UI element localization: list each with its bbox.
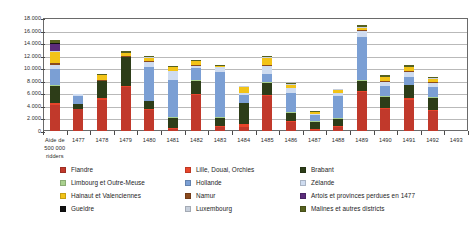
x-tick-mark bbox=[114, 131, 115, 135]
legend-label: Hollande bbox=[196, 179, 222, 186]
legend-label: Malines et autres districts bbox=[311, 205, 384, 212]
legend-item[interactable]: Lille, Douai, Orchies bbox=[185, 163, 254, 176]
bar-segment bbox=[239, 95, 249, 103]
legend-item[interactable]: Luxembourg bbox=[185, 202, 254, 215]
y-tick-label: 6.000 bbox=[0, 90, 41, 96]
y-tick-label: 12.000 bbox=[0, 53, 41, 59]
bar-segment bbox=[262, 58, 272, 65]
legend-swatch-icon bbox=[60, 180, 66, 186]
y-tick-label: 10.000 bbox=[0, 65, 41, 71]
x-tick-mark bbox=[232, 131, 233, 135]
legend-column: BrabantZélandeArtois et provinces perdue… bbox=[300, 163, 415, 215]
bar-segment bbox=[168, 80, 178, 117]
legend-label: Artois et provinces perdues en 1477 bbox=[311, 192, 415, 199]
bar-segment bbox=[286, 113, 296, 121]
legend-item[interactable]: Malines et autres districts bbox=[300, 202, 415, 215]
bar-column bbox=[73, 94, 83, 131]
bar-segment bbox=[262, 96, 272, 131]
stacked-bar-chart: 02.0004.0006.0008.00010.00012.00014.0001… bbox=[0, 0, 475, 225]
x-tick-mark bbox=[421, 131, 422, 135]
bar-segment bbox=[380, 97, 390, 108]
bar-column bbox=[357, 25, 367, 131]
bar-segment bbox=[380, 109, 390, 131]
legend-item[interactable]: Zélande bbox=[300, 176, 415, 189]
x-tick-mark bbox=[303, 131, 304, 135]
x-tick-mark bbox=[137, 131, 138, 135]
bar-segment bbox=[97, 100, 107, 131]
bar-segment bbox=[144, 101, 154, 109]
legend-item[interactable]: Hollande bbox=[185, 176, 254, 189]
y-tick-label: 14.000 bbox=[0, 40, 41, 46]
x-tick-mark bbox=[350, 131, 351, 135]
legend-item[interactable]: Brabant bbox=[300, 163, 415, 176]
bar-column bbox=[428, 77, 438, 131]
bar-segment bbox=[168, 71, 178, 80]
bar-column bbox=[286, 83, 296, 131]
legend-item[interactable]: Gueldre bbox=[60, 202, 145, 215]
x-tick-mark bbox=[185, 131, 186, 135]
legend-swatch-icon bbox=[185, 167, 191, 173]
bar-segment bbox=[191, 81, 201, 94]
bar-segment bbox=[121, 87, 131, 131]
bar-segment bbox=[121, 57, 131, 85]
legend-item[interactable]: Hainaut et Valenciennes bbox=[60, 189, 145, 202]
bar-column bbox=[168, 66, 178, 131]
x-tick-mark bbox=[43, 131, 44, 135]
bar-segment bbox=[286, 122, 296, 131]
legend-item[interactable]: Artois et provinces perdues en 1477 bbox=[300, 189, 415, 202]
bar-segment bbox=[428, 87, 438, 97]
bar-segment bbox=[73, 96, 83, 104]
bar-column bbox=[191, 60, 201, 131]
bar-segment bbox=[144, 110, 154, 131]
bar-segment bbox=[262, 83, 272, 95]
bar-segment bbox=[239, 103, 249, 124]
legend-item[interactable]: Limbourg et Outre-Meuse bbox=[60, 176, 145, 189]
y-tick-label: 2.000 bbox=[0, 115, 41, 121]
legend-label: Gueldre bbox=[71, 205, 94, 212]
x-tick-mark bbox=[256, 131, 257, 135]
legend-column: FlandreLimbourg et Outre-MeuseHainaut et… bbox=[60, 163, 145, 215]
legend-label: Hainaut et Valenciennes bbox=[71, 192, 141, 199]
bar-segment bbox=[50, 44, 60, 52]
bar-column bbox=[50, 40, 60, 131]
legend-label: Namur bbox=[196, 192, 215, 199]
legend-label: Lille, Douai, Orchies bbox=[196, 166, 254, 173]
legend-swatch-icon bbox=[60, 206, 66, 212]
bar-column bbox=[404, 65, 414, 131]
legend-swatch-icon bbox=[185, 180, 191, 186]
bar-segment bbox=[310, 130, 320, 131]
x-tick-mark bbox=[208, 131, 209, 135]
bar-segment bbox=[262, 74, 272, 82]
y-tick-label: 18.000 bbox=[0, 15, 41, 21]
bar-segment bbox=[239, 127, 249, 131]
x-tick-mark bbox=[326, 131, 327, 135]
bars-layer bbox=[43, 18, 468, 131]
bar-column bbox=[310, 111, 320, 131]
bar-column bbox=[333, 89, 343, 131]
legend-swatch-icon bbox=[300, 206, 306, 212]
legend-label: Zélande bbox=[311, 179, 334, 186]
legend-item[interactable]: Flandre bbox=[60, 163, 145, 176]
bar-segment bbox=[404, 100, 414, 131]
bar-segment bbox=[191, 68, 201, 81]
y-tick-label: 0 bbox=[0, 128, 41, 134]
legend-swatch-icon bbox=[185, 206, 191, 212]
bar-segment bbox=[191, 95, 201, 131]
bar-segment bbox=[380, 86, 390, 97]
bar-segment bbox=[428, 111, 438, 131]
bar-column bbox=[121, 51, 131, 131]
bar-column bbox=[144, 56, 154, 131]
x-tick-mark bbox=[397, 131, 398, 135]
bar-segment bbox=[428, 98, 438, 110]
bar-segment bbox=[50, 105, 60, 131]
bar-segment bbox=[333, 96, 343, 118]
legend-item[interactable]: Namur bbox=[185, 189, 254, 202]
bar-column bbox=[239, 86, 249, 131]
x-tick-mark bbox=[90, 131, 91, 135]
bar-segment bbox=[262, 66, 272, 74]
x-tick-mark bbox=[161, 131, 162, 135]
bar-segment bbox=[97, 81, 107, 98]
bar-segment bbox=[404, 85, 414, 98]
bar-column bbox=[380, 75, 390, 131]
bar-segment bbox=[357, 92, 367, 131]
